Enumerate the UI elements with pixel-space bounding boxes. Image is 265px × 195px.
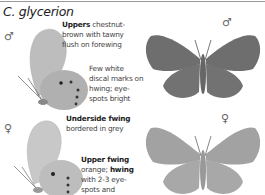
male-symbol-left: ♂ <box>4 30 14 43</box>
male-upperside-illustration <box>143 14 263 104</box>
species-title: C. glycerion <box>3 4 74 19</box>
female-symbol-left: ♀ <box>4 122 12 135</box>
male-symbol-right: ♂ <box>222 16 232 29</box>
top-rule <box>0 1 265 2</box>
male-upperside-note: Uppers chestnut-brown with tawny flush o… <box>62 20 134 50</box>
female-upperside-illustration <box>143 112 263 195</box>
female-underside-note: Underside fwingbordered in grey <box>66 114 136 134</box>
female-symbol-right: ♀ <box>221 112 229 125</box>
male-underside-note: Few white discal marks on hwing; eye-spo… <box>89 64 144 104</box>
female-upperside-note: Upper fwingorange; hwing with 2-3 eye-sp… <box>81 155 141 195</box>
